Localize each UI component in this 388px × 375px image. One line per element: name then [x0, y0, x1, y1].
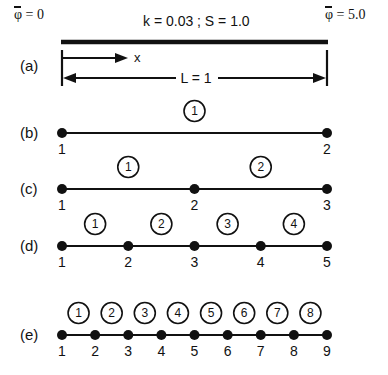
node-label: 6 [224, 344, 232, 358]
mesh-refinement-figure: φ = 0 φ = 5.0 k = 0.03 ; S = 1.0 x L = 1… [0, 0, 388, 375]
element-number: 2 [108, 307, 115, 319]
node-label: 1 [58, 344, 66, 358]
node-dot [256, 330, 266, 340]
node-dot [223, 330, 233, 340]
element-number: 1 [191, 105, 198, 117]
phi-left-symbol: φ [14, 8, 22, 22]
node-label: 1 [58, 142, 66, 156]
panel-label-c: (c) [20, 181, 38, 196]
node-dot [190, 241, 200, 251]
boundary-condition-right: φ = 5.0 [325, 8, 366, 22]
node-label: 2 [91, 344, 99, 358]
panel-label-d: (d) [20, 238, 38, 253]
domain-bar [61, 40, 328, 45]
figure-vector-layer [0, 0, 388, 375]
node-label: 5 [323, 255, 331, 269]
element-number: 5 [208, 307, 215, 319]
node-dot [190, 184, 200, 194]
element-number: 6 [241, 307, 248, 319]
boundary-condition-left: φ = 0 [14, 8, 44, 22]
x-axis-label: x [134, 51, 141, 64]
node-dot [90, 330, 100, 340]
panel-label-a: (a) [20, 58, 38, 73]
phi-left-value: = 0 [22, 7, 44, 22]
node-dot [57, 241, 67, 251]
node-dot [123, 241, 133, 251]
node-label: 3 [323, 198, 331, 212]
node-label: 4 [157, 344, 165, 358]
element-number: 2 [158, 218, 165, 230]
node-label: 3 [124, 344, 132, 358]
phi-right-value: = 5.0 [333, 7, 365, 22]
element-number: 8 [307, 307, 314, 319]
overbar-left [14, 6, 21, 8]
element-number: 7 [274, 307, 281, 319]
element-number: 1 [92, 218, 99, 230]
node-label: 1 [58, 198, 66, 212]
length-arrowhead-right [313, 73, 326, 83]
node-label: 7 [257, 344, 265, 358]
node-label: 2 [191, 198, 199, 212]
panel-label-e: (e) [20, 327, 38, 342]
element-number: 3 [224, 218, 231, 230]
overbar-right [325, 6, 332, 8]
node-label: 2 [323, 142, 331, 156]
node-dot [57, 128, 67, 138]
node-label: 8 [290, 344, 298, 358]
material-parameters-label: k = 0.03 ; S = 1.0 [143, 14, 250, 28]
node-dot [123, 330, 133, 340]
node-dot [190, 330, 200, 340]
node-dot [322, 330, 332, 340]
node-label: 1 [58, 255, 66, 269]
element-number: 4 [291, 218, 298, 230]
node-label: 4 [257, 255, 265, 269]
phi-left-glyph: φ [14, 7, 22, 22]
x-axis-arrowhead [115, 53, 128, 63]
node-label: 5 [191, 344, 199, 358]
node-label: 9 [323, 344, 331, 358]
node-dot [156, 330, 166, 340]
element-number: 1 [75, 307, 82, 319]
phi-right-symbol: φ [325, 8, 333, 22]
node-dot [322, 184, 332, 194]
element-number: 4 [175, 307, 182, 319]
element-number: 2 [257, 161, 264, 173]
panel-label-b: (b) [20, 125, 38, 140]
node-dot [256, 241, 266, 251]
node-label: 2 [124, 255, 132, 269]
node-dot [289, 330, 299, 340]
length-dimension-label: L = 1 [176, 71, 215, 85]
node-dot [57, 330, 67, 340]
length-arrowhead-left [63, 73, 76, 83]
node-dot [322, 128, 332, 138]
node-label: 3 [191, 255, 199, 269]
element-number: 3 [141, 307, 148, 319]
node-dot [322, 241, 332, 251]
phi-right-glyph: φ [325, 7, 333, 22]
element-number: 1 [125, 161, 132, 173]
node-dot [57, 184, 67, 194]
